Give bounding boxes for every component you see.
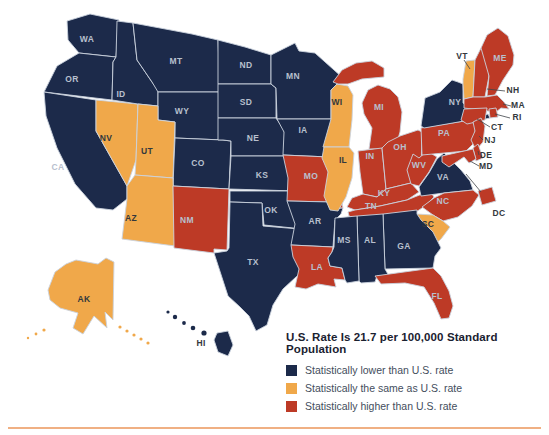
figure: WAORCANVIDMTWYUTCOAZNMNDSDNEKSOKTXMNIAMO… [0,0,549,435]
state-ak-island [139,337,142,340]
state-ak-island [118,325,121,328]
state-ak-island [27,337,29,339]
legend-swatch-lower [286,365,297,376]
state-mi-shape [333,61,384,84]
state-ny-label: NY [449,97,461,107]
state-id-label: ID [116,89,125,99]
state-az-shape [122,175,175,246]
state-la-label: LA [311,262,323,272]
state-me-label: ME [493,53,506,63]
state-ak-island [132,333,135,336]
state-mo-label: MO [304,171,318,181]
state-ak-island [146,341,149,344]
map-legend: U.S. Rate Is 21.7 per 100,000 Standard P… [286,331,542,418]
state-ks-label: KS [256,170,268,180]
legend-label-same: Statistically the same as U.S. rate [305,382,462,394]
state-ak-island [42,328,45,331]
state-co-label: CO [191,158,204,168]
state-ca-label: CA [52,162,65,172]
state-az-label: AZ [125,213,137,223]
state-tx-label: TX [247,257,258,267]
state-hi-island [166,310,169,313]
state-wi-label: WI [332,97,343,107]
state-mt-label: MT [170,56,183,66]
state-nj-label: NJ [484,135,495,145]
state-wy-label: WY [175,106,189,116]
state-ri-label: RI [512,112,521,122]
legend-swatch-higher [286,401,297,412]
state-ky-label: KY [378,188,390,198]
state-ne-label: NE [247,133,259,143]
state-wa-label: WA [80,34,94,44]
legend-item-higher: Statistically higher than U.S. rate [286,400,542,412]
footer-divider [8,427,541,429]
state-tn-label: TN [365,201,377,211]
legend-item-lower: Statistically lower than U.S. rate [286,364,542,376]
state-ok-label: OK [264,205,278,215]
state-nv-label: NV [100,133,112,143]
state-ia-label: IA [298,125,307,135]
state-hi-shape [214,331,233,356]
state-ak-island [35,333,38,336]
state-vt-label: VT [456,51,468,61]
state-nm-label: NM [180,215,194,225]
state-ms-label: MS [337,235,350,245]
state-ut-label: UT [141,146,153,156]
state-ar-label: AR [309,216,322,226]
state-md-label: MD [479,161,493,171]
legend-label-lower: Statistically lower than U.S. rate [305,364,453,376]
state-hi-island [191,326,196,331]
state-hi-island [201,330,206,335]
legend-swatch-same [286,383,297,394]
state-shapes [27,14,514,356]
state-or-shape [44,53,116,100]
state-de-label: DE [480,150,492,160]
state-mi-label: MI [374,102,384,112]
state-ak-label: AK [78,294,91,304]
legend-title: U.S. Rate Is 21.7 per 100,000 Standard P… [286,331,542,355]
state-pa-label: PA [438,128,450,138]
legend-label-higher: Statistically higher than U.S. rate [305,400,457,412]
state-in-label: IN [365,151,374,161]
state-mn-label: MN [286,71,300,81]
state-hi-island [182,321,186,325]
state-hi-label: HI [196,338,205,348]
legend-item-same: Statistically the same as U.S. rate [286,382,542,394]
state-hi-island [173,315,177,319]
state-ma-label: MA [511,100,525,110]
state-nh-label: NH [507,85,520,95]
state-sc-label: SC [422,219,434,229]
state-dc-label: DC [493,208,506,218]
state-ga-label: GA [397,241,410,251]
state-al-label: AL [364,235,376,245]
state-ct-label: CT [491,122,503,132]
state-oh-label: OH [393,142,406,152]
state-nd-label: ND [240,60,253,70]
state-dc-shape [478,187,496,205]
state-md-callout-line [470,161,479,166]
state-ak-island [125,329,128,332]
state-fl-label: FL [432,291,443,301]
state-il-label: IL [339,155,347,165]
state-wv-label: WV [412,160,426,170]
state-nc-label: NC [437,196,450,206]
state-or-label: OR [65,74,78,84]
state-sd-label: SD [240,97,252,107]
state-ri-shape [489,108,498,118]
state-va-label: VA [437,172,449,182]
